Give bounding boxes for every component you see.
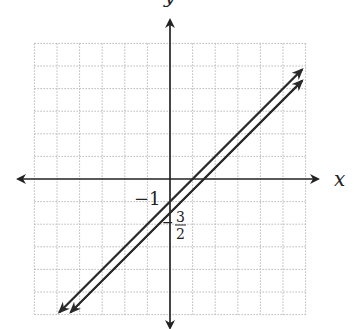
graphed-lines (59, 69, 302, 312)
intercept-label-2-denominator: 2 (176, 226, 185, 242)
intercept-label-2-sign: − (162, 214, 174, 230)
line-2 (71, 81, 303, 313)
coordinate-plane: x y −1 − 3 2 (0, 0, 354, 329)
intercept-label-2-numerator: 3 (176, 209, 185, 225)
intercept-label-1: −1 (134, 188, 161, 209)
line-1 (59, 69, 302, 312)
x-axis-label: x (334, 167, 345, 191)
y-axis-label: y (163, 0, 176, 8)
